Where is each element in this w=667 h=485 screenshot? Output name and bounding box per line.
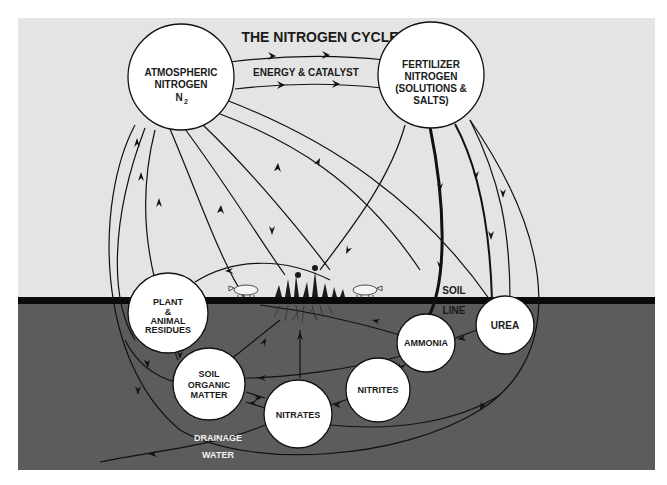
svg-text:PLANT: PLANT	[153, 297, 183, 307]
svg-text:FERTILIZER: FERTILIZER	[402, 59, 461, 70]
svg-text:NITROGEN: NITROGEN	[155, 79, 208, 90]
svg-text:NITRITES: NITRITES	[357, 385, 398, 395]
node-ammonia: AMMONIA	[397, 314, 455, 372]
energy-catalyst-label: ENERGY & CATALYST	[253, 67, 359, 78]
svg-text:NITRATES: NITRATES	[276, 410, 320, 420]
svg-text:MATTER: MATTER	[191, 390, 228, 400]
svg-text:(SOLUTIONS &: (SOLUTIONS &	[395, 83, 467, 94]
node-atmospheric-nitrogen: ATMOSPHERIC NITROGEN N 2	[128, 24, 234, 130]
svg-text:SALTS): SALTS)	[413, 95, 448, 106]
svg-text:SOIL: SOIL	[198, 369, 220, 379]
line-label: LINE	[443, 305, 466, 316]
svg-text:2: 2	[184, 98, 188, 105]
node-urea: UREA	[476, 296, 534, 354]
svg-text:RESIDUES: RESIDUES	[145, 325, 191, 335]
node-fertilizer-nitrogen: FERTILIZER NITROGEN (SOLUTIONS & SALTS)	[378, 22, 484, 128]
soil-label: SOIL	[442, 285, 465, 296]
sky-region	[18, 18, 655, 300]
node-nitrates: NITRATES	[264, 380, 332, 448]
svg-text:NITROGEN: NITROGEN	[405, 71, 458, 82]
water-label: WATER	[202, 450, 234, 460]
soil-region	[18, 302, 655, 470]
node-soil-organic-matter: SOIL ORGANIC MATTER	[173, 348, 245, 420]
node-nitrites: NITRITES	[346, 358, 410, 422]
nitrogen-cycle-diagram: THE NITROGEN CYCLE ENERGY & CATALYST	[0, 0, 667, 485]
diagram-title: THE NITROGEN CYCLE	[241, 29, 398, 45]
svg-text:ATMOSPHERIC: ATMOSPHERIC	[144, 67, 217, 78]
svg-text:N: N	[175, 92, 182, 103]
node-plant-animal-residues: PLANT & ANIMAL RESIDUES	[128, 273, 208, 353]
svg-text:UREA: UREA	[491, 320, 519, 331]
svg-text:ORGANIC: ORGANIC	[188, 380, 231, 390]
svg-text:AMMONIA: AMMONIA	[404, 338, 448, 348]
drainage-label: DRAINAGE	[194, 433, 242, 443]
